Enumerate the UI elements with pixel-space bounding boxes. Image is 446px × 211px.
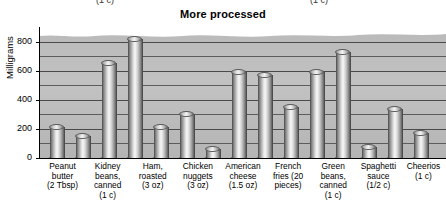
bar	[154, 127, 167, 158]
bar	[258, 75, 271, 158]
bar-body	[388, 109, 403, 158]
bar	[50, 127, 63, 158]
chart-figure: (1 c) (1 c) More processed 0200400600800…	[0, 0, 446, 211]
bar-body	[336, 52, 351, 158]
bar-body	[128, 39, 143, 158]
x-axis-labels: Peanutbutter(2 Tbsp)Kidneybeans,canned(1…	[40, 162, 446, 211]
bar-body	[102, 63, 117, 158]
bar-top	[205, 146, 220, 152]
bar	[414, 133, 427, 158]
bar	[284, 107, 297, 158]
bar-body	[284, 107, 299, 158]
bar-body	[258, 75, 273, 158]
bar	[310, 72, 323, 158]
bar	[388, 109, 401, 158]
y-tick-label-200: 200	[6, 123, 32, 133]
bar	[232, 72, 245, 158]
bar-body	[414, 133, 429, 158]
bar	[336, 52, 349, 158]
bar	[102, 63, 115, 158]
bar-body	[232, 72, 247, 158]
bar-body	[50, 127, 65, 158]
gridline-800	[40, 42, 446, 43]
bar-body	[180, 114, 195, 158]
gridline-minor-700	[40, 56, 446, 57]
bar-top	[257, 72, 272, 78]
x-label-line: (1/2 c)	[350, 181, 407, 191]
x-label-line: (1 c)	[395, 172, 446, 182]
y-axis-title: Milligrams	[4, 3, 15, 113]
x-axis-line	[39, 158, 446, 159]
bar-top	[153, 124, 168, 130]
bar-body	[76, 136, 91, 158]
bar	[128, 39, 141, 158]
bar	[180, 114, 193, 158]
y-axis-line	[39, 27, 40, 159]
bar-body	[310, 72, 325, 158]
bar	[76, 136, 89, 158]
x-label-line: (1 c)	[79, 191, 136, 201]
bar-top	[49, 124, 64, 130]
bar-top	[387, 106, 402, 112]
x-label-8: Cheerios(1 c)	[395, 162, 446, 181]
bar	[206, 149, 219, 158]
bar-body	[154, 127, 169, 158]
y-tick-label-0: 0	[6, 152, 32, 162]
x-label-line: (1 c)	[305, 191, 362, 201]
bar	[362, 147, 375, 158]
